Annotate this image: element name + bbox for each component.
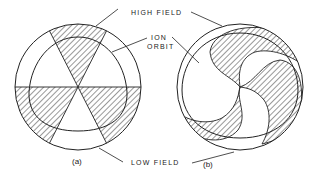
leader-low-field-b: [192, 152, 234, 163]
diagram-figure: HIGH FIELD ION ORBIT LOW FIELD (a) (b): [0, 0, 314, 176]
leader-low-field-a: [99, 148, 123, 162]
panel-b: [177, 27, 303, 144]
leader-high-field-a: [96, 9, 118, 26]
panel-a: [14, 15, 141, 150]
label-low-field: LOW FIELD: [131, 159, 180, 167]
leader-high-field-b: [191, 12, 222, 26]
label-ion-orbit-line1: ION: [151, 34, 167, 42]
caption-a: (a): [72, 157, 82, 166]
leader-ion-orbit-b: [172, 37, 199, 63]
caption-b: (b): [203, 160, 213, 169]
diagram-drawing: [0, 0, 314, 176]
label-high-field: HIGH FIELD: [131, 9, 182, 17]
label-ion-orbit-line2: ORBIT: [147, 43, 174, 51]
high-field-sector-top: [46, 15, 110, 87]
